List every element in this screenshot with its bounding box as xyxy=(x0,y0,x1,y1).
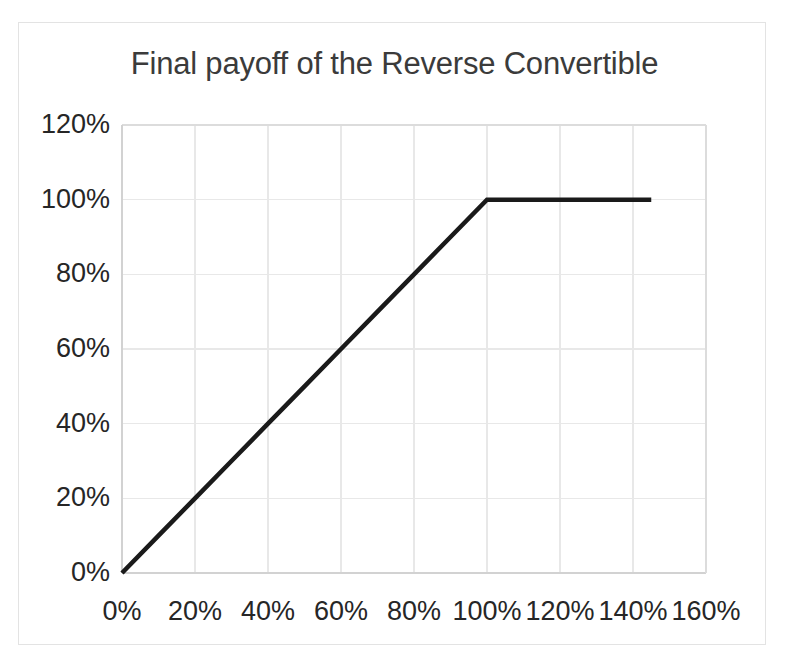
y-axis-tick-label: 80% xyxy=(6,258,110,288)
gridlines xyxy=(122,125,706,573)
y-axis-tick-label: 60% xyxy=(6,333,110,363)
chart-figure: Final payoff of the Reverse Convertible … xyxy=(0,0,789,670)
y-axis-tick-label: 100% xyxy=(6,184,110,214)
y-axis-tick-label: 40% xyxy=(6,408,110,438)
y-axis-tick-label: 0% xyxy=(6,557,110,587)
y-axis-tick-label: 120% xyxy=(6,109,110,139)
data-series-line xyxy=(122,200,651,573)
payoff-line xyxy=(122,200,651,573)
x-axis-tick-label: 160% xyxy=(661,596,751,626)
y-axis-tick-label: 20% xyxy=(6,482,110,512)
plot-area xyxy=(0,0,789,670)
